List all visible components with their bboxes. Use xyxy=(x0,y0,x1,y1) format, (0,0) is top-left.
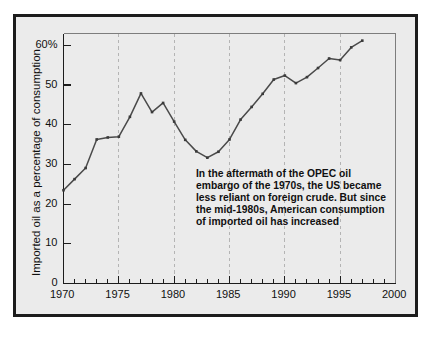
axis-major-ticks xyxy=(64,45,71,283)
x-axis-tick-label: 2000 xyxy=(0,288,431,300)
y-axis-tick-label: 10 xyxy=(45,236,57,248)
y-axis-tick-label: 30 xyxy=(45,157,57,169)
y-axis-tick-label: 20 xyxy=(45,197,57,209)
y-axis-tick-label: 0 xyxy=(51,276,57,288)
y-axis-tick-label: 60% xyxy=(35,38,57,50)
gridlines xyxy=(119,34,340,284)
chart-figure: Imported oil as a percentage of consumpt… xyxy=(0,0,431,338)
y-axis-tick-label: 40 xyxy=(45,117,57,129)
y-axis-tick-label: 50 xyxy=(45,78,57,90)
chart-annotation-text: In the aftermath of the OPEC oilembargo … xyxy=(196,168,376,228)
annotation-line: less reliant on foreign crude. But since xyxy=(196,192,376,204)
annotation-line: of imported oil has increased xyxy=(196,216,376,228)
annotation-line: the mid-1980s, American consumption xyxy=(196,204,376,216)
annotation-line: In the aftermath of the OPEC oil xyxy=(196,168,376,180)
x-minor-ticks xyxy=(64,276,396,284)
annotation-line: embargo of the 1970s, the US became xyxy=(196,180,376,192)
